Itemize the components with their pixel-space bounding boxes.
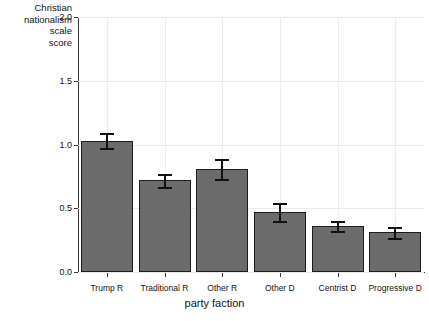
x-tick-label: Progressive D [366, 283, 424, 293]
x-tick-mark [107, 273, 108, 277]
y-gridline [78, 17, 424, 18]
error-bar-cap-lower [215, 179, 229, 181]
x-tick-label: Traditional R [136, 283, 194, 293]
error-bar-stem [279, 203, 281, 221]
error-bar-cap-lower [273, 221, 287, 223]
x-tick-label: Trump R [78, 283, 136, 293]
x-tick-mark [338, 273, 339, 277]
y-tick-label: 0.0 [46, 267, 72, 277]
error-bar-cap-upper [158, 174, 172, 176]
x-tick-mark [222, 273, 223, 277]
y-tick-mark [74, 81, 78, 82]
y-tick-label: 2.0 [46, 12, 72, 22]
error-bar-stem [221, 159, 223, 179]
y-tick-mark [74, 208, 78, 209]
error-bar-cap-upper [388, 227, 402, 229]
error-bar-cap-lower [331, 231, 345, 233]
error-bar-cap-upper [100, 133, 114, 135]
x-tick-mark [280, 273, 281, 277]
plot-area [78, 17, 424, 272]
y-tick-mark [74, 17, 78, 18]
bar [196, 169, 248, 272]
y-axis-title: Christian nationalism scale score [0, 2, 72, 48]
error-bar-cap-lower [388, 238, 402, 240]
y-tick-mark [74, 145, 78, 146]
error-bar-cap-upper [273, 203, 287, 205]
x-tick-label: Centrist D [309, 283, 367, 293]
x-axis-title: party faction [0, 297, 429, 309]
y-tick-mark [74, 272, 78, 273]
y-gridline [78, 81, 424, 82]
y-tick-label: 0.5 [46, 203, 72, 213]
error-bar-stem [106, 133, 108, 148]
x-tick-mark [165, 273, 166, 277]
x-tick-mark [395, 273, 396, 277]
error-bar-cap-lower [100, 148, 114, 150]
error-bar-cap-upper [331, 221, 345, 223]
bar [81, 141, 133, 272]
y-tick-label: 1.0 [46, 140, 72, 150]
error-bar-cap-upper [215, 159, 229, 161]
x-tick-label: Other R [193, 283, 251, 293]
bar-chart-figure: Christian nationalism scale score 0.00.5… [0, 0, 429, 321]
y-gridline [78, 272, 424, 273]
x-tick-label: Other D [251, 283, 309, 293]
bar [139, 180, 191, 272]
error-bar-cap-lower [158, 187, 172, 189]
y-tick-label: 1.5 [46, 76, 72, 86]
